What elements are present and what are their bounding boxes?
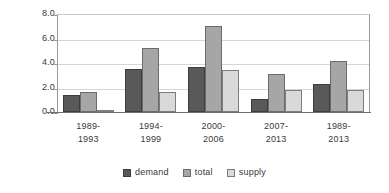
y-axis-tick-label: 8.0 (21, 9, 55, 18)
legend-label: supply (239, 168, 266, 177)
legend-swatch-total (183, 169, 191, 177)
bar-group (313, 14, 364, 112)
bar-demand (63, 95, 80, 112)
bar-demand (125, 69, 142, 112)
legend-label: total (195, 168, 213, 177)
y-axis-tick-label: 6.0 (21, 34, 55, 43)
legend-item-supply[interactable]: supply (227, 168, 266, 177)
x-axis-label-line: 1994- (119, 120, 183, 133)
legend-item-demand[interactable]: demand (123, 168, 169, 177)
x-axis-label-line: 1999 (119, 133, 183, 146)
chart-legend: demandtotalsupply (0, 168, 389, 177)
bar-demand (313, 84, 330, 112)
x-axis-label-line: 1989- (56, 120, 120, 133)
x-axis-label-line: 2013 (244, 133, 308, 146)
bar-total (80, 92, 97, 112)
x-axis-label-line: 1993 (56, 133, 120, 146)
x-axis-tick-label: 1989-1993 (56, 120, 120, 146)
bar-group (63, 14, 114, 112)
bar-supply (285, 90, 302, 112)
bar-demand (251, 99, 268, 112)
bar-chart: 0.02.04.06.08.0 1989-19931994-19992000-2… (0, 0, 389, 193)
bar-supply (159, 92, 176, 112)
x-axis-line (46, 112, 371, 113)
y-axis-tick-label: 2.0 (21, 83, 55, 92)
x-axis-tick-label: 1994-1999 (119, 120, 183, 146)
bar-supply (222, 70, 239, 112)
bar-supply (97, 110, 114, 112)
legend-swatch-demand (123, 169, 131, 177)
bar-total (330, 61, 347, 112)
legend-label: demand (135, 168, 169, 177)
x-axis-label-line: 2013 (307, 133, 371, 146)
bar-supply (347, 90, 364, 112)
bar-group (251, 14, 302, 112)
x-axis-tick-label: 1989-2013 (307, 120, 371, 146)
x-axis-tick-label: 2007-2013 (244, 120, 308, 146)
legend-swatch-supply (227, 169, 235, 177)
legend-item-total[interactable]: total (183, 168, 213, 177)
bar-demand (188, 67, 205, 112)
bars-layer (57, 14, 370, 112)
x-axis-tick-label: 2000-2006 (182, 120, 246, 146)
bar-total (205, 26, 222, 112)
x-axis-label-line: 1989- (307, 120, 371, 133)
bar-group (125, 14, 176, 112)
x-axis-label-line: 2000- (182, 120, 246, 133)
x-axis-label-line: 2007- (244, 120, 308, 133)
y-axis-tick-label: 4.0 (21, 58, 55, 67)
x-axis-label-line: 2006 (182, 133, 246, 146)
bar-total (268, 74, 285, 112)
bar-total (142, 48, 159, 112)
bar-group (188, 14, 239, 112)
y-axis-tick (54, 113, 58, 114)
